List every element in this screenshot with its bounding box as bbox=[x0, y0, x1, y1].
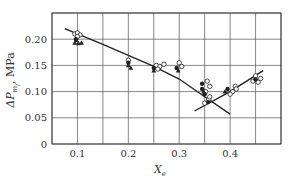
open-circle-point bbox=[228, 92, 232, 96]
tick-labels: 0.10.20.30.400.050.100.150.20 bbox=[25, 34, 238, 159]
open-circle-point bbox=[258, 76, 262, 80]
trend-lines bbox=[65, 29, 264, 114]
chart: 0.10.20.30.400.050.100.150.20 Xe ΔPmf, M… bbox=[0, 0, 294, 183]
open-circle-point bbox=[205, 79, 209, 83]
open-circle-point bbox=[180, 64, 184, 68]
y-tick-label: 0.05 bbox=[25, 112, 47, 123]
open-circle-point bbox=[162, 62, 166, 66]
y-tick-label: 0.20 bbox=[25, 34, 47, 45]
filled-circle-point bbox=[206, 100, 210, 104]
y-tick-label: 0.10 bbox=[25, 86, 47, 97]
filled-circle-point bbox=[253, 77, 257, 81]
open-circle-point bbox=[234, 87, 238, 91]
x-tick-label: 0.1 bbox=[69, 148, 85, 159]
filled-circle-point bbox=[225, 87, 229, 91]
x-axis-label: Xe bbox=[153, 163, 166, 178]
filled-triangle-point bbox=[79, 40, 84, 44]
data-points bbox=[73, 31, 263, 106]
y-tick-label: 0 bbox=[41, 139, 47, 150]
open-circle-point bbox=[208, 95, 212, 99]
plot-frame bbox=[52, 13, 281, 144]
open-circle-point bbox=[208, 84, 212, 88]
grid bbox=[52, 13, 281, 144]
open-circle-point bbox=[156, 67, 160, 71]
x-tick-label: 0.3 bbox=[171, 148, 187, 159]
x-tick-label: 0.4 bbox=[222, 148, 238, 159]
y-axis-label: ΔPmf, MPa bbox=[4, 52, 21, 109]
filled-circle-point bbox=[200, 82, 204, 86]
x-tick-label: 0.2 bbox=[120, 148, 136, 159]
y-tick-label: 0.15 bbox=[25, 60, 47, 71]
